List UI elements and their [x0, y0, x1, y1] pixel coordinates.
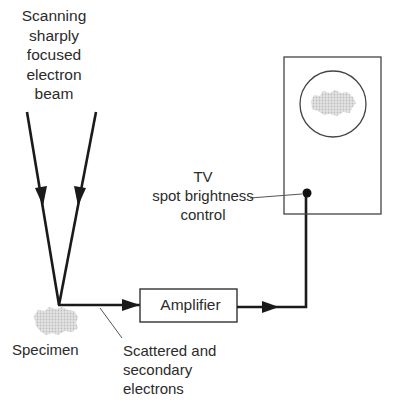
scattered-label-line: secondary — [123, 360, 216, 379]
scattered-label-leader — [100, 308, 122, 338]
beam-label-line: beam — [0, 84, 108, 104]
beam-label-line: sharply — [0, 26, 108, 46]
scattered-label-line: electrons — [123, 379, 216, 398]
beam-label-line: focused — [0, 45, 108, 65]
electron-beam-lines — [27, 112, 96, 305]
tv-label-line: control — [143, 205, 263, 224]
specimen-label: Specimen — [12, 341, 79, 359]
amplifier-label: Amplifier — [144, 296, 237, 314]
tv-screen-box — [284, 57, 381, 214]
brightness-control-dot-icon — [303, 189, 312, 198]
tv-label-line: TV — [143, 167, 263, 186]
specimen-blob — [34, 307, 78, 335]
tv-image-blob — [311, 90, 356, 116]
arrow-to-tv-icon — [262, 301, 279, 313]
beam-label: Scanning sharply focused electron beam — [0, 6, 108, 104]
beam-label-line: electron — [0, 65, 108, 85]
tv-label: TV spot brightness control — [143, 167, 263, 224]
beam-label-line: Scanning — [0, 6, 108, 26]
sem-diagram: Scanning sharply focused electron beam T… — [0, 0, 407, 405]
scattered-label-line: Scattered and — [123, 341, 216, 360]
tv-label-line: spot brightness — [143, 186, 263, 205]
arrow-to-amplifier-icon — [122, 299, 140, 311]
beam-arrow-icon — [35, 186, 86, 206]
scattered-label: Scattered and secondary electrons — [123, 341, 216, 398]
